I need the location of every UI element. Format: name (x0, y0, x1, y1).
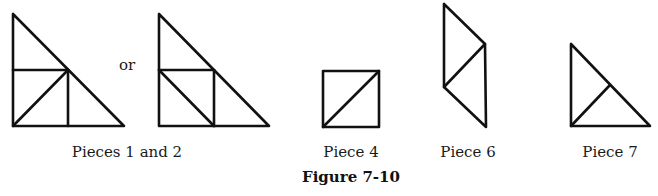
figure-diagram (0, 0, 658, 196)
piece-6-parallelogram (444, 4, 486, 127)
pieces-1-2-option-b (159, 14, 269, 126)
or-connector: or (119, 56, 135, 74)
figure-caption: Figure 7-10 (302, 168, 400, 186)
label-pieces-1-and-2: Pieces 1 and 2 (72, 143, 182, 161)
label-piece-4: Piece 4 (323, 143, 378, 161)
label-piece-7: Piece 7 (582, 143, 637, 161)
piece-4-square (323, 71, 379, 127)
piece-7-triangle (571, 44, 650, 126)
label-piece-6: Piece 6 (440, 143, 495, 161)
pieces-1-2-option-a (13, 14, 124, 126)
